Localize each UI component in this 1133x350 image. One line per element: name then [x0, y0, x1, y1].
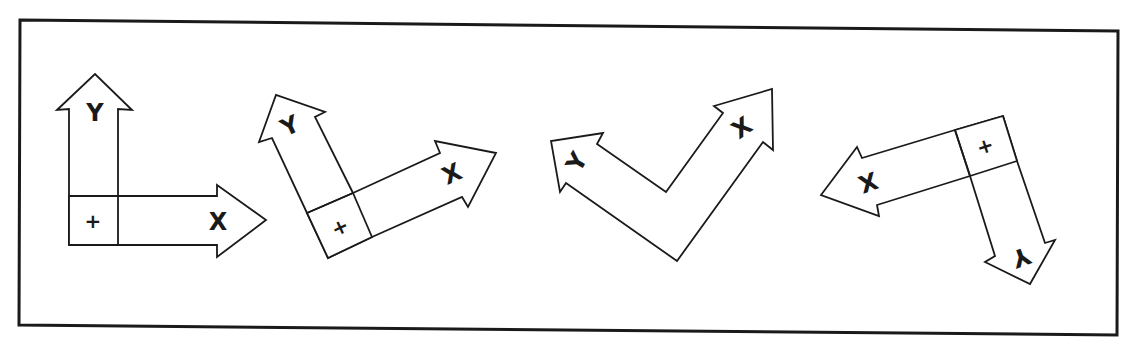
- figure-4: + X Y: [821, 116, 1055, 284]
- figure-2: Y + X: [259, 95, 496, 258]
- x-axis-label: X: [209, 208, 228, 236]
- origin-label: +: [85, 209, 102, 233]
- figure-3: Y X: [551, 89, 773, 261]
- figure-1: Y + X: [57, 74, 266, 257]
- diagram-canvas: Y + X Y + X Y X + X Y: [0, 0, 1133, 350]
- y-axis-arrow: [955, 116, 1055, 284]
- y-axis-label: Y: [85, 99, 104, 127]
